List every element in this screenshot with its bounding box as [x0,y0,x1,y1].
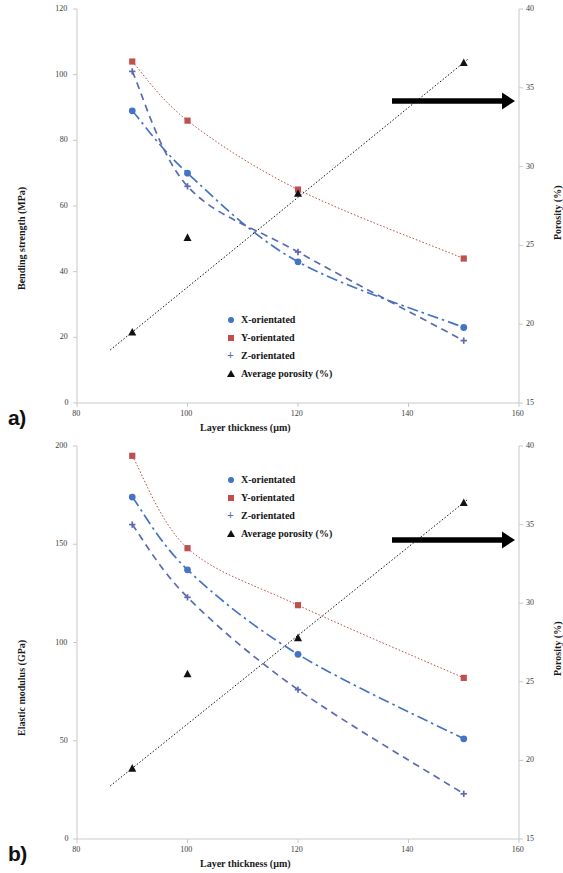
legend-a: X-orientatedY-orientated+Z-orientatedAve… [224,310,332,382]
legend-item-label: X-orientated [241,314,295,325]
x-tick-label: 120 [291,845,303,854]
y-axis-title-a: Bending strength (MPa) [16,187,27,290]
legend-item-z-orientated: +Z-orientated [224,346,332,364]
series-z-orientated [129,68,467,344]
legend-item-label: Z-orientated [241,510,295,521]
y2-tick-label: 20 [526,319,534,328]
x-tick-label: 80 [72,409,80,418]
legend-item-average-porosity: Average porosity (%) [224,364,332,382]
legend-item-y-orientated: Y-orientated [224,328,332,346]
y-tick-label: 50 [60,736,68,745]
legend-item-label: Average porosity (%) [241,368,332,379]
legend-item-y-orientated: Y-orientated [224,488,332,506]
right-axis-arrow-annotation [392,532,515,549]
x-tick-label: 80 [72,845,80,854]
x-tick-label: 100 [180,845,192,854]
y-axis-title-b: Elastic modulus (GPa) [16,640,27,736]
square-marker-icon [224,332,237,343]
y-tick-label: 200 [55,441,67,450]
legend-item-label: Z-orientated [241,350,295,361]
panel-label-b: b) [8,842,27,866]
y-tick-label: 100 [55,638,67,647]
plus-marker-icon: + [224,510,237,521]
plus-marker-icon: + [224,350,237,361]
circle-marker-icon [224,314,237,325]
y2-tick-label: 25 [526,240,534,249]
panel-label-a: a) [8,406,26,430]
y2-axis-title-b: Porosity (%) [552,621,563,676]
figure-container: a) Layer thickness (µm) Bending strength… [0,0,563,873]
y-tick-label: 20 [60,332,68,341]
legend-b: X-orientatedY-orientated+Z-orientatedAve… [224,470,332,542]
y2-axis-title-a: Porosity (%) [552,185,563,240]
chart-panel-a: a) Layer thickness (µm) Bending strength… [0,0,563,436]
right-axis-arrow-annotation [392,93,515,110]
x-axis-title-a: Layer thickness (µm) [200,422,291,433]
x-tick-label: 140 [401,409,413,418]
legend-item-label: Y-orientated [241,332,295,343]
chart-panel-b: b) Layer thickness (µm) Elastic modulus … [0,436,563,873]
series-x-orientated [129,107,467,331]
series-y-orientated [129,58,467,261]
triangle-marker-icon [224,368,237,379]
y-tick-label: 60 [60,201,68,210]
x-tick-label: 100 [180,409,192,418]
y-tick-label: 80 [60,135,68,144]
y2-tick-label: 40 [526,4,534,13]
legend-item-label: Average porosity (%) [241,528,332,539]
legend-item-average-porosity: Average porosity (%) [224,524,332,542]
y-tick-label: 0 [64,834,68,843]
triangle-marker-icon [224,528,237,539]
y2-tick-label: 35 [526,520,534,529]
circle-marker-icon [224,474,237,485]
y2-tick-label: 15 [526,834,534,843]
y2-tick-label: 35 [526,83,534,92]
y2-tick-label: 20 [526,755,534,764]
y2-tick-label: 30 [526,598,534,607]
x-tick-label: 120 [291,409,303,418]
y-tick-label: 40 [60,267,68,276]
legend-item-x-orientated: X-orientated [224,470,332,488]
legend-item-x-orientated: X-orientated [224,310,332,328]
legend-item-z-orientated: +Z-orientated [224,506,332,524]
y-tick-label: 120 [55,4,67,13]
y-tick-label: 100 [55,70,67,79]
y2-tick-label: 40 [526,441,534,450]
legend-item-label: Y-orientated [241,492,295,503]
square-marker-icon [224,492,237,503]
legend-item-label: X-orientated [241,474,295,485]
x-tick-label: 160 [512,845,524,854]
x-axis-title-b: Layer thickness (µm) [200,858,291,869]
y2-tick-label: 15 [526,398,534,407]
y2-tick-label: 30 [526,162,534,171]
y2-tick-label: 25 [526,677,534,686]
x-tick-label: 160 [512,409,524,418]
x-tick-label: 140 [401,845,413,854]
y-tick-label: 0 [64,398,68,407]
y-tick-label: 150 [55,539,67,548]
